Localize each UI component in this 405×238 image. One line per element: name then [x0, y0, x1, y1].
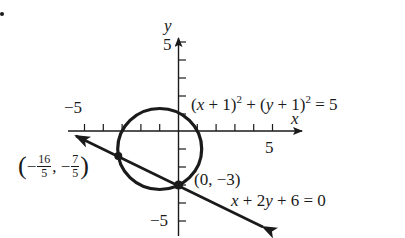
line-equation-label: x + 2y + 6 = 0	[231, 192, 326, 209]
fraction-7-5: 75	[71, 153, 79, 179]
numerator: 7	[71, 153, 79, 167]
minus-sign: −	[27, 157, 37, 176]
circle-equation-label: (x + 1)2 + (y + 1)2 = 5	[191, 96, 338, 113]
paren-close: )	[80, 151, 89, 180]
eq-part: + 2	[239, 191, 266, 210]
eq-part: + (	[242, 95, 266, 114]
intersection-point-origin-below	[174, 181, 183, 190]
y-tick-label-5: 5	[163, 36, 172, 53]
x-tick-label-5: 5	[265, 139, 274, 156]
eq-var-x: x	[231, 191, 239, 210]
point-label-neg16-5-neg7-5: (−165, −75)	[18, 153, 89, 179]
eq-part: + 6 = 0	[273, 191, 326, 210]
comma-minus: , −	[52, 157, 70, 176]
eq-part: + 1)	[204, 95, 236, 114]
diagram-figure: y x 5 −5 −5 5 (x + 1)2 + (y + 1)2 = 5 x …	[0, 0, 405, 238]
paren-open: (	[18, 151, 27, 180]
eq-part: = 5	[311, 95, 338, 114]
intersection-point-left	[114, 152, 122, 160]
denominator: 5	[71, 167, 79, 180]
eq-part: + 1)	[273, 95, 305, 114]
y-axis	[179, 38, 187, 236]
x-tick-label-neg5: −5	[64, 99, 82, 116]
point-label-0-neg3: (0, −3)	[194, 171, 240, 188]
fraction-16-5: 165	[37, 153, 51, 179]
numerator: 16	[37, 153, 51, 167]
eq-var-y: y	[265, 191, 273, 210]
x-axis	[68, 124, 302, 131]
denominator: 5	[37, 167, 51, 180]
y-tick-label-neg5: −5	[150, 212, 168, 229]
graph-canvas	[0, 0, 405, 238]
y-axis-label: y	[164, 17, 172, 34]
